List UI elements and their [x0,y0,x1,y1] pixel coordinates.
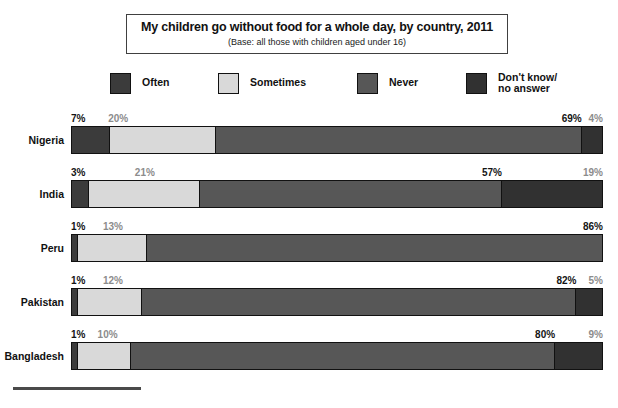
data-value-label: 1% [71,329,85,341]
data-value-label: 10% [98,329,118,341]
legend-label: Don't know/ no answer [498,72,557,95]
data-value-label: 86% [583,221,603,233]
bar-segment-sometimes [88,181,199,207]
bar-segment-don-t-know-no-answer [554,343,602,369]
bar-segment-sometimes [109,127,215,153]
bar-segment-never [141,289,576,315]
stacked-bar [71,342,603,370]
value-label-strip: 7%20%69%4% [71,104,603,125]
bar-segment-never [130,343,554,369]
stacked-bar [71,126,603,154]
data-value-label: 7% [71,113,85,125]
chart-title-box: My children go without food for a whole … [126,14,508,54]
category-label-bangladesh: Bangladesh [0,342,64,370]
category-label-peru: Peru [0,234,64,262]
bar-segment-don-t-know-no-answer [581,127,602,153]
stacked-bar [71,288,603,316]
legend-swatch-icon [357,73,378,94]
chart-row: India3%21%57%19% [0,158,618,212]
data-value-label: 19% [583,167,603,179]
legend-swatch-icon [466,73,487,94]
bar-segment-often [72,181,88,207]
category-label-nigeria: Nigeria [0,126,64,154]
legend-item-3: Don't know/ no answer [466,66,557,100]
bar-segment-never [215,127,581,153]
legend-item-0: Often [110,66,169,100]
bar-segment-sometimes [77,289,141,315]
category-label-india: India [0,180,64,208]
data-value-label: 80% [535,329,555,341]
bar-segment-never [146,235,602,261]
data-value-label: 13% [103,221,123,233]
chart-subtitle: (Base: all those with children aged unde… [228,36,406,48]
category-label-pakistan: Pakistan [0,288,64,316]
value-label-strip: 1%13%86% [71,212,603,233]
legend-swatch-icon [110,73,131,94]
chart-row: Bangladesh1%10%80%9% [0,320,618,374]
value-label-strip: 1%10%80%9% [71,320,603,341]
data-value-label: 1% [71,275,85,287]
chart-row: Peru1%13%86% [0,212,618,266]
legend-label: Often [142,77,169,89]
data-value-label: 9% [589,329,603,341]
value-label-strip: 3%21%57%19% [71,158,603,179]
data-value-label: 4% [589,113,603,125]
chart-row: Nigeria7%20%69%4% [0,104,618,158]
page-title: My children go without food for a whole … [141,20,493,34]
data-value-label: 5% [589,275,603,287]
stacked-bar [71,234,603,262]
legend-swatch-icon [218,73,239,94]
chart-plot-area: Nigeria7%20%69%4%India3%21%57%19%Peru1%1… [0,104,618,376]
legend-label: Sometimes [250,77,306,89]
legend-item-2: Never [357,66,418,100]
data-value-label: 57% [482,167,502,179]
bar-segment-sometimes [77,235,146,261]
data-value-label: 82% [556,275,576,287]
footer-divider [13,387,141,390]
data-value-label: 21% [135,167,155,179]
chart-row: Pakistan1%12%82%5% [0,266,618,320]
data-value-label: 3% [71,167,85,179]
legend-label: Never [389,77,418,89]
value-label-strip: 1%12%82%5% [71,266,603,287]
chart-legend: OftenSometimesNeverDon't know/ no answer [0,66,618,100]
data-value-label: 20% [108,113,128,125]
bar-segment-often [72,127,109,153]
bar-segment-sometimes [77,343,130,369]
stacked-bar [71,180,603,208]
legend-item-1: Sometimes [218,66,306,100]
bar-segment-don-t-know-no-answer [575,289,602,315]
data-value-label: 69% [562,113,582,125]
bar-segment-never [199,181,501,207]
data-value-label: 1% [71,221,85,233]
bar-segment-don-t-know-no-answer [501,181,602,207]
data-value-label: 12% [103,275,123,287]
